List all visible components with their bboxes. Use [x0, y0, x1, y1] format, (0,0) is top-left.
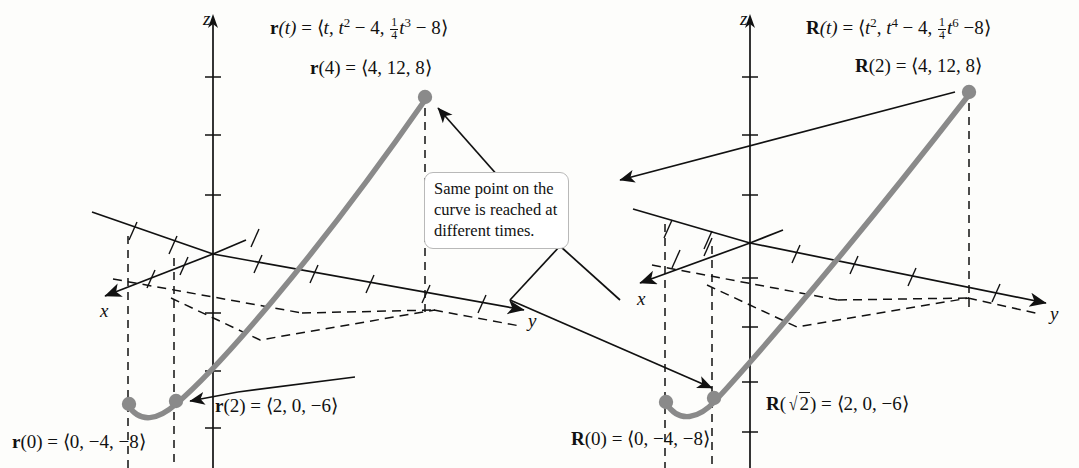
left-point-r4 [418, 90, 432, 104]
right-x-axis [640, 238, 750, 283]
left-point-mid-label: r(2) = ⟨2, 0, −6⟩ [215, 395, 338, 417]
right-y-negative-ray [750, 230, 783, 243]
left-fn-fraction: 14 [390, 17, 398, 42]
callout-line-2: curve is reached at [434, 200, 559, 221]
right-y-axis-label: y [1050, 303, 1058, 325]
left-fn-arg: (t) [278, 17, 296, 38]
left-x-axis-label: x [100, 300, 108, 322]
left-parametric-curve [128, 100, 425, 418]
left-fn-comp3-tail: − 8 [411, 17, 441, 38]
callout-line-3: different times. [434, 221, 559, 242]
right-fn-arg: (t) [820, 17, 838, 38]
right-y-axis [750, 243, 1046, 303]
left-z-axis-label: z [203, 8, 210, 30]
left-fn-eq: = [296, 17, 316, 38]
left-leader-r2-tail [238, 377, 355, 392]
right-ptop-arg: (2) [869, 55, 891, 76]
right-fn-comp1-tail: , [877, 17, 887, 38]
right-fn-fraction: 14 [938, 17, 946, 42]
right-pmid-name: R [766, 393, 780, 414]
right-function-equation: R(t) = ⟨t2, t4 − 4, 14t6 −8⟩ [806, 16, 991, 42]
right-ptop-val: = ⟨4, 12, 8⟩ [891, 55, 982, 76]
left-frac-num: 1 [390, 17, 398, 29]
right-z-axis-label: z [740, 8, 747, 30]
right-point-Rsqrt2 [707, 391, 721, 405]
left-frac-den: 4 [390, 29, 398, 42]
right-fn-comp2-tail: − 4 [898, 17, 928, 38]
right-fn-close: ⟩ [984, 17, 991, 38]
right-fn-comp3-tail: −8 [959, 17, 984, 38]
left-y-negative-ray [213, 240, 246, 254]
callout-box: Same point on the curve is reached at di… [424, 172, 569, 249]
left-ptop-val: = ⟨4, 12, 8⟩ [341, 57, 432, 78]
right-ptop-name: R [855, 55, 869, 76]
right-pmid-val: = ⟨2, 0, −6⟩ [816, 393, 908, 414]
right-x-negative-ray [633, 209, 750, 249]
right-fn-open: ⟨ [858, 17, 865, 38]
left-pstart-val: = ⟨0, −4, −8⟩ [43, 431, 146, 452]
left-pstart-arg: (0) [20, 431, 42, 452]
right-frac-num: 1 [938, 17, 946, 29]
left-point-r0 [122, 397, 136, 411]
left-y-axis [213, 254, 524, 313]
left-pmid-arg: (2) [223, 395, 245, 416]
left-fn-comp2-tail: − 4 [350, 17, 380, 38]
right-point-start-label: R(0) = ⟨0, −4, −8⟩ [571, 428, 710, 450]
left-pmid-val: = ⟨2, 0, −6⟩ [246, 395, 338, 416]
left-point-top-label: r(4) = ⟨4, 12, 8⟩ [310, 57, 432, 79]
right-fn-eq: = [838, 17, 858, 38]
right-pstart-name: R [571, 428, 585, 449]
left-point-start-label: r(0) = ⟨0, −4, −8⟩ [12, 431, 146, 453]
right-pstart-val: = ⟨0, −4, −8⟩ [607, 428, 710, 449]
right-point-top-label: R(2) = ⟨4, 12, 8⟩ [855, 55, 982, 77]
right-x-axis-label: x [637, 288, 645, 310]
right-reference-plane [652, 265, 1040, 327]
right-point-R0 [659, 395, 673, 409]
right-point-R2 [962, 85, 976, 99]
right-point-mid-label: R(√2) = ⟨2, 0, −6⟩ [766, 392, 909, 415]
left-fn-open: ⟨ [317, 17, 324, 38]
right-fn-name: R [806, 17, 820, 38]
callout-line-1: Same point on the [434, 179, 559, 200]
left-point-r2 [169, 394, 183, 408]
right-frac-den: 4 [938, 29, 946, 42]
left-x-negative-ray [92, 212, 213, 254]
right-pstart-arg: (0) [585, 428, 607, 449]
right-pmid-radicand: 2 [799, 392, 811, 415]
left-ptop-arg: (4) [318, 57, 340, 78]
left-fn-comp1: t [324, 17, 329, 38]
left-y-axis-label: y [528, 310, 536, 332]
right-pmid-sqrt: √2 [786, 392, 810, 415]
left-function-equation: r(t) = ⟨t, t2 − 4, 14t3 − 8⟩ [270, 16, 448, 42]
left-fn-close: ⟩ [441, 17, 448, 38]
